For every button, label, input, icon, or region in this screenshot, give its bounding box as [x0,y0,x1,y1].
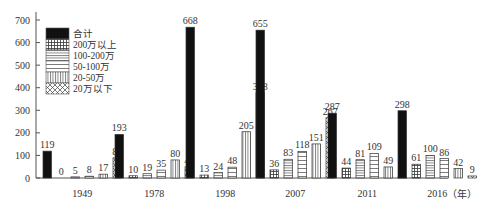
legend-swatch [46,61,69,72]
bar-value-label: 151 [309,132,324,143]
bar-2016-2: 100 [423,143,438,178]
legend-swatch [46,50,69,61]
bar-2016-3: 86 [439,147,449,178]
bar-value-label: 205 [239,120,254,131]
bar-value-label: 119 [40,139,55,150]
bar-value-label: 86 [439,147,449,158]
y-tick-label: 300 [15,105,30,116]
bar-2011-1: 44 [341,156,351,178]
bar-1998-1: 13 [199,163,209,178]
y-tick-label: 100 [15,150,30,161]
y-tick-label: 700 [15,15,30,26]
x-tick-label: 2007 [285,188,305,199]
bar-2016-5: 9 [468,164,477,178]
legend-label: 20-50万 [73,73,105,83]
bar-value-label: 81 [355,148,365,159]
x-axis-label: （年） [447,188,477,200]
bar-value-label: 13 [199,163,209,174]
bar-value-label: 193 [112,122,127,133]
legend-label: 20万以下 [73,84,113,94]
x-tick-labels: 194919781998200720112016 [72,188,447,199]
bar-value-label: 0 [59,166,64,177]
bar-value-label: 668 [183,15,198,26]
legend-label: 合计 [73,28,93,39]
legend-swatch [46,28,69,39]
bar-value-label: 35 [156,158,166,169]
bar-1949-1: 0 [59,166,64,177]
bar-value-label: 17 [98,162,108,173]
bar-2011-2: 81 [355,148,365,178]
bar-1978-1: 10 [128,164,138,178]
x-tick-label: 1978 [144,188,164,199]
bar-1998-2: 24 [213,161,223,178]
legend-swatch [46,83,69,94]
bar-value-label: 48 [227,155,237,166]
bar-value-label: 9 [470,164,475,175]
y-tick-label: 400 [15,82,30,93]
bar-1949-4: 17 [98,162,108,178]
bar-value-label: 287 [325,101,340,112]
bar-1998-4: 205 [239,120,254,178]
bar-1949-3: 8 [85,164,94,178]
x-tick-label: 1949 [72,188,92,199]
bar-value-label: 24 [213,161,223,172]
bar-value-label: 118 [295,139,310,150]
bar-1978-4: 80 [170,148,180,178]
legend-swatch [46,72,69,83]
bar-value-label: 80 [170,148,180,159]
bar-value-label: 298 [395,99,410,110]
x-tick-label: 2016 [427,188,447,199]
bar-value-label: 42 [453,157,463,168]
bar-1998-0: 668 [183,15,198,178]
bar-value-label: 5 [73,165,78,176]
bar-value-label: 49 [383,155,393,166]
bar-2007-4: 151 [309,132,324,178]
legend: 合计200万以上100-200万50-100万20-50万20万以下 [46,28,117,94]
bar-1978-2: 19 [142,162,152,178]
bar-1949-0: 119 [40,139,55,178]
bar-2007-0: 655 [253,18,268,178]
bar-value-label: 655 [253,18,268,29]
x-tick-label: 2011 [357,188,377,199]
bar-1998-3: 48 [227,155,237,178]
y-tick-label: 0 [25,173,30,184]
bar-2011-3: 109 [367,141,382,178]
y-tick-label: 200 [15,127,30,138]
bar-2007-1: 36 [269,158,279,178]
grouped-bar-chart: 0100200300400500600700 （年） 1190581789193… [0,0,496,207]
legend-label: 200万以上 [73,40,117,50]
legend-label: 100-200万 [73,51,115,61]
bar-1978-3: 35 [156,158,166,178]
bar-value-label: 36 [269,158,279,169]
bar-2011-4: 49 [383,155,393,178]
bar-value-label: 109 [367,141,382,152]
bar-2007-3: 118 [295,139,310,178]
bar-1949-2: 5 [71,165,80,178]
y-tick-label: 600 [15,37,30,48]
bar-value-label: 83 [283,147,293,158]
bar-value-label: 61 [411,152,421,163]
legend-label: 50-100万 [73,62,110,72]
bar-value-label: 19 [142,162,152,173]
bar-2016-4: 42 [453,157,463,178]
bar-2016-1: 61 [411,152,421,178]
bar-2016-0: 298 [395,99,410,178]
legend-swatch [46,39,69,50]
y-tick-label: 500 [15,60,30,71]
bar-value-label: 10 [128,164,138,175]
bar-2007-2: 83 [283,147,293,178]
bar-value-label: 100 [423,143,438,154]
x-tick-label: 1998 [215,188,235,199]
bar-value-label: 44 [341,156,351,167]
bar-value-label: 8 [87,164,92,175]
